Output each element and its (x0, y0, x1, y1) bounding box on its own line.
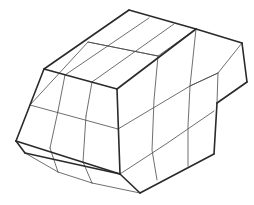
mesh-outline-edge (242, 43, 247, 82)
mesh-grid-line (58, 172, 92, 183)
mesh-outline-edge (25, 153, 120, 174)
mesh-grid-line (190, 73, 218, 86)
mesh-outline-edge (16, 141, 120, 174)
mesh-grid-line (88, 42, 158, 56)
mesh-grid-line (50, 111, 58, 148)
mesh-diagram: 3D hexahedral mesh wireframe (0, 0, 254, 205)
mesh-grid-line (118, 43, 242, 129)
mesh-outline-edge (117, 89, 120, 174)
mesh-wireframe (0, 0, 254, 205)
mesh-grid-line (217, 73, 218, 103)
mesh-grid-line (188, 29, 196, 166)
mesh-grid-line (58, 75, 65, 111)
mesh-outline-edge (129, 10, 196, 29)
mesh-outline-edge (214, 103, 217, 154)
mesh-grid-line (92, 183, 140, 193)
mesh-outline-edge (217, 82, 247, 103)
mesh-outline-edge (120, 174, 140, 193)
mesh-grid-line (83, 116, 86, 162)
mesh-grid-line (152, 56, 158, 180)
mesh-grid-lines (25, 18, 242, 193)
mesh-grid-line (120, 111, 214, 174)
mesh-grid-line (86, 82, 92, 116)
mesh-outline-edge (196, 29, 242, 43)
mesh-outline-edge (140, 154, 214, 193)
mesh-grid-line (30, 105, 118, 129)
mesh-outline-edge (16, 69, 44, 141)
mesh-outline-edge (117, 29, 196, 89)
mesh-outline-edges (16, 10, 247, 193)
